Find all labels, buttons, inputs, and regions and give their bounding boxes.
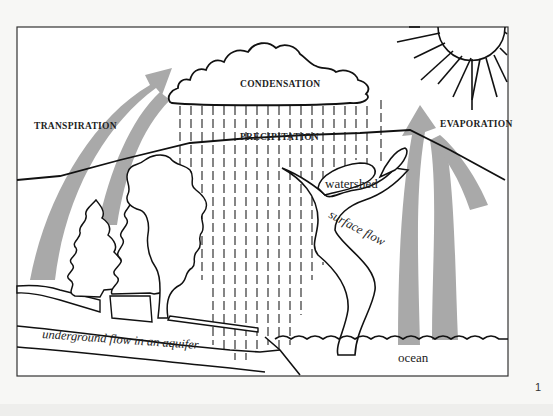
label-condensation: CONDENSATION <box>240 79 321 89</box>
label-transpiration: TRANSPIRATION <box>34 121 117 131</box>
label-watershed: watershed <box>325 176 378 191</box>
page-number: 1 <box>535 381 541 393</box>
label-ocean: ocean <box>398 350 429 365</box>
label-evaporation: EVAPORATION <box>440 119 513 129</box>
water-cycle-diagram: CONDENSATION PRECIPITATION TRANSPIRATION… <box>0 0 553 416</box>
label-precipitation: PRECIPITATION <box>240 132 319 142</box>
